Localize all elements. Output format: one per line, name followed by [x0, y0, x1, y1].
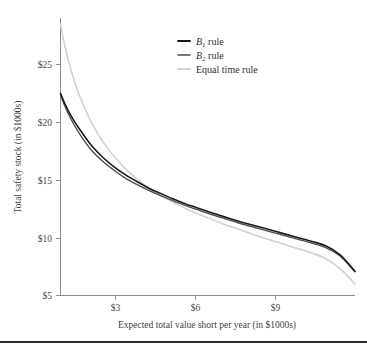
series-b1-rule	[61, 93, 356, 271]
line-chart: $25 $20 $15 $10 $5 $3 $6 $9 Expected tot…	[0, 0, 367, 351]
x-tick-label-3: $3	[111, 303, 121, 313]
y-tick-label-10: $10	[38, 234, 53, 244]
x-axis-title: Expected total value short per year (in …	[118, 320, 296, 331]
x-tick-label-6: $6	[191, 303, 201, 313]
x-tick-label-9: $9	[271, 303, 281, 313]
legend-label-equal-time-rule: Equal time rule	[196, 64, 258, 75]
chart-legend: B1 rule B2 rule Equal time rule	[178, 36, 258, 75]
y-axis-title: Total safety stock (in $1000s)	[13, 101, 24, 214]
y-tick-label-15: $15	[38, 176, 53, 186]
y-tick-label-20: $20	[38, 118, 53, 128]
chart-figure: $25 $20 $15 $10 $5 $3 $6 $9 Expected tot…	[0, 0, 367, 351]
series-b2-rule	[61, 95, 356, 272]
footer-divider	[0, 341, 367, 343]
y-tick-label-5: $5	[43, 291, 53, 301]
legend-label-b2-rule: B2 rule	[196, 50, 224, 64]
y-tick-label-25: $25	[38, 60, 53, 70]
y-axis-ticks	[56, 65, 61, 296]
legend-label-b1-rule: B1 rule	[196, 36, 224, 50]
x-axis-ticks	[116, 296, 276, 301]
